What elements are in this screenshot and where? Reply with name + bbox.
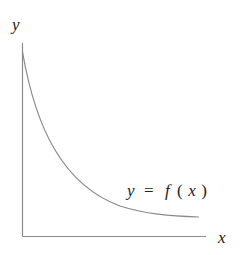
curve-label-f: f — [165, 181, 172, 200]
curve-label-close-paren: ) — [201, 181, 207, 200]
curve-label-y: y — [125, 181, 135, 200]
function-graph: y x y = f ( x ) — [0, 0, 240, 255]
x-axis-label: x — [217, 228, 226, 247]
y-axis-label: y — [10, 15, 20, 34]
curve-label-x: x — [187, 181, 196, 200]
curve-label: y = f ( x ) — [125, 180, 207, 200]
curve-label-open-paren: ( — [177, 181, 183, 200]
curve-label-equals: = — [144, 181, 154, 200]
